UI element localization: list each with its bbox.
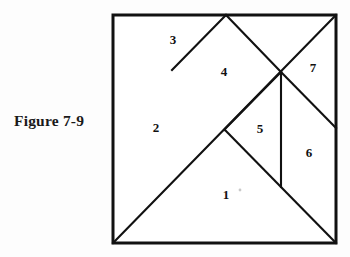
scan-speck-artifact xyxy=(239,189,242,192)
tangram-diagram: 1 2 3 4 5 6 7 xyxy=(0,0,350,257)
piece-label-5: 5 xyxy=(257,121,264,136)
piece-label-6: 6 xyxy=(306,145,313,160)
piece-label-1: 1 xyxy=(223,187,230,202)
piece-label-3: 3 xyxy=(170,32,177,47)
figure-container: Figure 7-9 1 2 3 4 5 6 7 xyxy=(0,0,350,257)
piece-label-2: 2 xyxy=(153,120,160,135)
piece-label-4: 4 xyxy=(221,64,228,79)
piece-label-7: 7 xyxy=(310,60,317,75)
